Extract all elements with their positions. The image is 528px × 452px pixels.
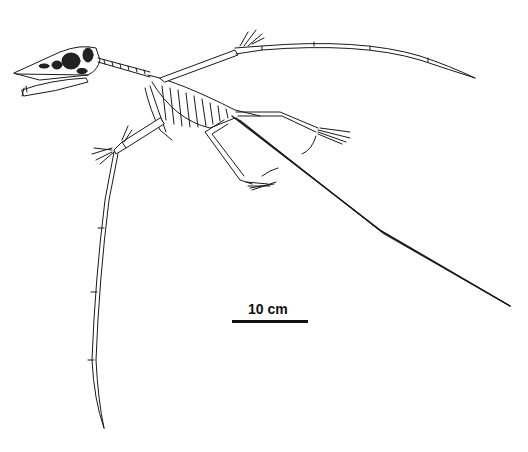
- scale-bar: [232, 320, 308, 323]
- torso-ribs: [145, 75, 260, 140]
- neck-vertebrae: [98, 58, 150, 77]
- tail: [232, 116, 510, 306]
- pterosaur-skeleton-drawing: [0, 0, 528, 452]
- skull: [14, 47, 100, 96]
- scale-bar-label: 10 cm: [248, 301, 288, 317]
- lower-wing: [88, 118, 164, 428]
- upper-wing: [160, 30, 475, 82]
